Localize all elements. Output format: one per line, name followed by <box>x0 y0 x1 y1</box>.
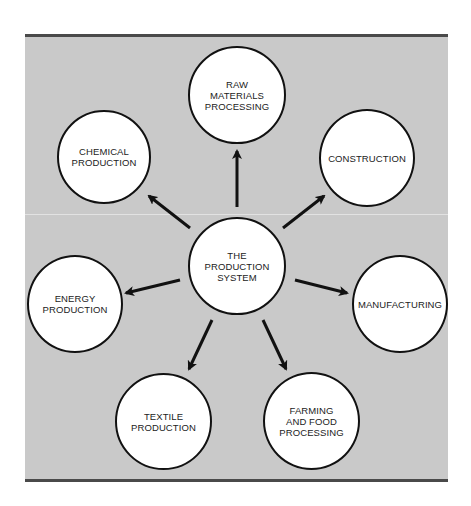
node-label: RAW MATERIALS PROCESSING <box>205 79 269 112</box>
arrow-to-textile <box>189 320 212 369</box>
node-label: MANUFACTURING <box>358 299 442 310</box>
node-farming-food-processing: FARMING AND FOOD PROCESSING <box>263 372 360 470</box>
arrow-to-energy <box>126 280 180 293</box>
hub-label: THE PRODUCTION SYSTEM <box>205 250 270 283</box>
arrow-to-farming <box>263 320 286 369</box>
node-manufacturing: MANUFACTURING <box>352 255 448 353</box>
arrow-to-construction <box>283 196 324 228</box>
node-label: TEXTILE PRODUCTION <box>131 411 196 433</box>
node-label: FARMING AND FOOD PROCESSING <box>279 405 343 438</box>
node-production-system-hub: THE PRODUCTION SYSTEM <box>188 217 286 315</box>
node-label: CONSTRUCTION <box>328 153 406 164</box>
node-textile-production: TEXTILE PRODUCTION <box>115 373 212 470</box>
node-raw-materials-processing: RAW MATERIALS PROCESSING <box>188 46 286 144</box>
node-construction: CONSTRUCTION <box>319 109 415 207</box>
node-energy-production: ENERGY PRODUCTION <box>27 255 123 353</box>
node-label: CHEMICAL PRODUCTION <box>72 146 137 168</box>
arrow-to-chemical <box>149 196 190 228</box>
node-label: ENERGY PRODUCTION <box>43 293 108 315</box>
arrow-to-manufacturing <box>295 280 347 293</box>
node-chemical-production: CHEMICAL PRODUCTION <box>57 110 151 204</box>
